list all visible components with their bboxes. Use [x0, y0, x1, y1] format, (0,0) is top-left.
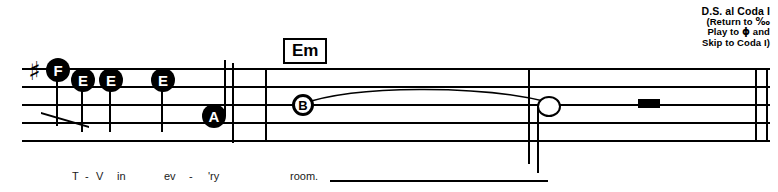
- notehead-f-1: F: [46, 58, 70, 82]
- lyric-syllable-2: -: [85, 170, 89, 182]
- staff-line-2: [22, 86, 770, 88]
- notehead-e-2: E: [71, 68, 95, 92]
- staff-line-5: [22, 140, 770, 142]
- barline-2: [265, 68, 267, 142]
- notehead-a-5: A: [202, 104, 226, 128]
- lyric-syllable-8: room.: [290, 170, 318, 182]
- staff-line-1: [22, 68, 770, 70]
- barline-4: [755, 68, 757, 142]
- lyric-syllable-4: in: [117, 170, 126, 182]
- barline-5: [766, 68, 768, 142]
- direction-line-3-text: Play to: [707, 26, 742, 37]
- direction-line-3: Play to ϕ and: [702, 27, 771, 38]
- half-rest-icon: [638, 99, 660, 108]
- lyric-syllable-5: ev: [164, 170, 176, 182]
- notehead-e-3: E: [99, 68, 123, 92]
- staff-line-4: [22, 122, 770, 124]
- note-stem-6: [537, 105, 539, 173]
- direction-line-2-text: (Return to: [706, 16, 755, 27]
- direction-line-4: Skip to Coda I): [702, 38, 771, 49]
- barline-1: [232, 63, 234, 143]
- note-stem-5: [224, 60, 226, 116]
- notehead-b-6: B: [292, 94, 314, 116]
- lyric-syllable-6: -: [189, 170, 193, 182]
- segno-icon: ‰: [756, 16, 771, 27]
- lyric-syllable-1: T: [72, 170, 79, 182]
- eighth-note-beam: [41, 112, 89, 128]
- music-notation-sheet: D.S. al Coda I (Return to ‰ Play to ϕ an…: [0, 0, 778, 192]
- key-signature-sharp-icon: ♯: [28, 58, 41, 84]
- notehead-open-7: [537, 96, 561, 117]
- chord-symbol-em: Em: [283, 38, 327, 64]
- performance-direction-text: D.S. al Coda I (Return to ‰ Play to ϕ an…: [702, 6, 771, 48]
- direction-line-3-suffix: and: [750, 26, 770, 37]
- barline-3: [528, 68, 530, 164]
- lyric-syllable-7: 'ry: [208, 170, 219, 182]
- coda-icon: ϕ: [742, 26, 750, 37]
- lyric-syllable-3: V: [96, 170, 103, 182]
- lyric-extension-line: [330, 180, 548, 182]
- notehead-e-4: E: [151, 68, 175, 92]
